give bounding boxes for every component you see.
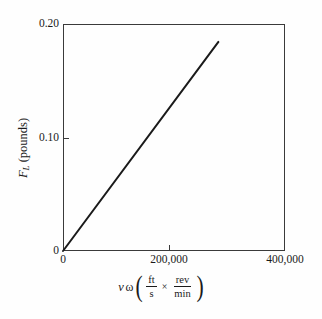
figure-canvas: 0.20 0.10 0 0 200,000 400,000 FL (pounds… [0,0,322,319]
times-symbol: × [162,282,168,292]
y-tick-label-0.10: 0.10 [39,132,59,144]
y-axis-subscript: L [21,165,31,170]
fraction-ft-per-s: ft s [146,274,156,300]
fraction-numerator-ft: ft [146,274,156,287]
fraction-rev-per-min: rev min [172,274,192,300]
y-tick-0.10 [63,138,69,139]
x-tick-200000 [169,245,170,251]
fraction-denominator-s: s [147,287,155,299]
fraction-denominator-min: min [172,287,192,299]
x-axis-title: vω ( ft s × rev min ) [0,274,322,300]
x-tick-label-400000: 400,000 [266,254,303,266]
x-axis-symbol-omega: ω [125,281,133,293]
y-axis-title: FL (pounds) [14,88,34,208]
fraction-numerator-rev: rev [174,274,191,287]
x-axis-symbol-v: v [118,281,124,294]
x-axis-title-text: vω ( ft s × rev min ) [118,274,203,300]
y-axis-units: (pounds) [16,118,30,166]
y-tick-label-0: 0 [53,245,59,257]
x-tick-label-200000: 200,000 [150,254,187,266]
y-tick-0.20 [63,24,69,25]
x-tick-label-0: 0 [60,254,66,266]
y-axis-title-text: FL (pounds) [17,118,32,178]
plot-area [63,24,285,251]
y-tick-label-0.20: 0.20 [39,18,59,30]
data-line-series-0 [63,42,218,251]
paren-open: ( [136,274,143,299]
y-axis-symbol: F [16,170,30,178]
paren-close: ) [196,274,203,299]
